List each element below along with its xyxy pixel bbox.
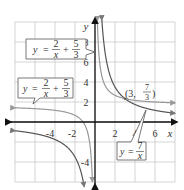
curve-parent — [15, 131, 84, 187]
label-den: 3 — [64, 88, 69, 99]
label-den: x — [137, 150, 143, 161]
label-y: y — [119, 146, 125, 157]
label-num: 2 — [54, 38, 59, 49]
label-den: 3 — [74, 49, 79, 60]
point-open: (3, — [125, 88, 136, 100]
point-close: ) — [152, 88, 155, 100]
label-plus: + — [53, 83, 59, 94]
curve-parent — [102, 20, 175, 113]
label-num: 5 — [64, 77, 69, 88]
y-tick-label: 4 — [84, 77, 89, 88]
x-tick-label: 2 — [113, 128, 118, 139]
label-eq: = — [43, 44, 49, 55]
label-y: y — [22, 83, 28, 94]
y-axis-label: y — [83, 20, 89, 32]
label-den: x — [53, 49, 59, 60]
label-den: x — [43, 88, 49, 99]
x-tick-label: 6 — [153, 128, 158, 139]
y-tick-label: 2 — [84, 97, 89, 108]
label-num: 2 — [44, 77, 49, 88]
graph: -4 -2 2 4 6 8 6 4 2 -4 y x y = 2 x + 5 3… — [0, 0, 184, 190]
label-plus: + — [63, 44, 69, 55]
label-eq: = — [128, 146, 134, 157]
label-num: 5 — [74, 38, 79, 49]
transformed-label-left: y = 2 x + 5 3 — [18, 77, 73, 104]
x-tick-label: -2 — [68, 128, 76, 139]
parent-label: y = 7 x — [117, 110, 146, 161]
point-den: 3 — [145, 93, 149, 102]
point-num: 7 — [145, 83, 149, 92]
curve-transformed — [97, 20, 175, 102]
x-tick-label: -4 — [46, 128, 54, 139]
x-axis-label: x — [167, 127, 173, 139]
label-y: y — [32, 44, 38, 55]
transformed-label-top: y = 2 x + 5 3 — [26, 38, 95, 60]
label-eq: = — [32, 83, 38, 94]
y-tick-label: -4 — [81, 157, 89, 168]
